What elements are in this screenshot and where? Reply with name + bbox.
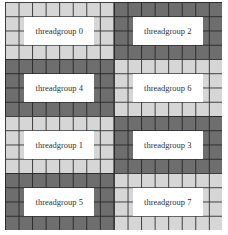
threadgroup-6-label: threadgroup 6 bbox=[133, 74, 203, 102]
threadgroup-5-block: threadgroup 5 bbox=[5, 173, 114, 230]
threadgroup-1-label: threadgroup 1 bbox=[24, 131, 94, 159]
threadgroup-5-label: threadgroup 5 bbox=[24, 188, 94, 216]
threadgroup-7-block: threadgroup 7 bbox=[114, 173, 223, 230]
threadgroup-0-block: threadgroup 0 bbox=[5, 2, 114, 59]
threadgroup-4-label: threadgroup 4 bbox=[24, 74, 94, 102]
threadgroup-4-block: threadgroup 4 bbox=[5, 59, 114, 116]
threadgroup-1-block: threadgroup 1 bbox=[5, 116, 114, 173]
threadgroup-3-block: threadgroup 3 bbox=[114, 116, 223, 173]
threadgroup-2-label: threadgroup 2 bbox=[133, 17, 203, 45]
threadgroup-0-label: threadgroup 0 bbox=[24, 17, 94, 45]
threadgroup-6-block: threadgroup 6 bbox=[114, 59, 223, 116]
threadgroup-2-block: threadgroup 2 bbox=[114, 2, 223, 59]
threadgroup-7-label: threadgroup 7 bbox=[133, 188, 203, 216]
threadgroup-3-label: threadgroup 3 bbox=[133, 131, 203, 159]
threadgroup-grid: threadgroup 0 threadgroup 2 threadgroup … bbox=[5, 2, 222, 230]
